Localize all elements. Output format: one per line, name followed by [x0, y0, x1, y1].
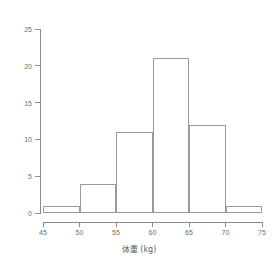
plot-area	[43, 29, 262, 213]
histogram-bar	[153, 58, 190, 213]
x-axis-tick	[79, 222, 80, 227]
x-axis-tick	[225, 222, 226, 227]
y-axis-tick-label: 15	[24, 99, 32, 106]
y-axis-tick: 20	[35, 65, 40, 66]
histogram-bar	[116, 132, 153, 213]
y-axis-tick-label: 25	[24, 26, 32, 33]
histogram-bar	[80, 184, 117, 213]
y-axis-tick-label: 5	[28, 173, 32, 180]
histogram-bar	[43, 206, 80, 213]
histogram-figure: 0510152025 体重 (kg) 45505560657075	[0, 0, 278, 269]
x-axis-tick-label: 45	[39, 229, 47, 237]
x-axis-tick-label: 75	[258, 229, 266, 237]
y-axis-tick: 25	[35, 29, 40, 30]
histogram-bar	[226, 206, 263, 213]
y-axis-line	[40, 29, 41, 214]
x-axis-tick	[43, 222, 44, 227]
y-axis-tick-label: 10	[24, 136, 32, 143]
y-axis-tick: 15	[35, 102, 40, 103]
x-axis-tick	[116, 222, 117, 227]
y-axis-tick-label: 0	[28, 210, 32, 217]
x-axis-tick-label: 70	[222, 229, 230, 237]
x-axis-tick-label: 50	[76, 229, 84, 237]
x-axis-tick-label: 60	[149, 229, 157, 237]
x-axis-tick	[262, 222, 263, 227]
x-axis-title: 体重 (kg)	[0, 245, 278, 255]
x-axis-tick-label: 65	[185, 229, 193, 237]
histogram-bar	[189, 125, 226, 213]
y-axis-tick: 0	[35, 213, 40, 214]
x-axis-tick-label: 55	[112, 229, 120, 237]
y-axis-tick-label: 20	[24, 62, 32, 69]
y-axis-tick: 10	[35, 139, 40, 140]
y-axis-tick: 5	[35, 176, 40, 177]
x-axis-tick	[152, 222, 153, 227]
x-axis-tick	[189, 222, 190, 227]
